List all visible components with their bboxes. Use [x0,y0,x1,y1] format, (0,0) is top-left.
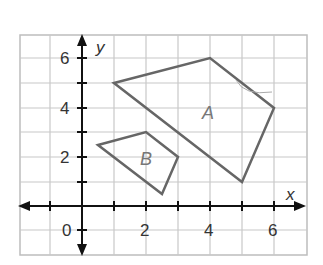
shape-b-label: B [140,149,152,169]
y-axis-down-arrow-icon [77,244,87,256]
origin-label: 0 [62,221,71,240]
y-axis-label: y [95,38,106,57]
shape-a-label: A [201,103,214,123]
x-axis-right-arrow-icon [294,201,306,211]
x-axis-label: x [285,185,295,204]
coordinate-plane: y x 0 2 4 6 2 4 6 A B [0,0,323,265]
shape-b [98,132,178,194]
x-tick-2: 2 [140,221,149,240]
y-axis-up-arrow-icon [77,34,87,46]
x-tick-6: 6 [268,221,277,240]
x-tick-4: 4 [204,221,213,240]
shape-a [114,58,274,182]
y-tick-2: 2 [60,148,69,167]
y-tick-6: 6 [60,49,69,68]
y-tick-4: 4 [60,99,69,118]
